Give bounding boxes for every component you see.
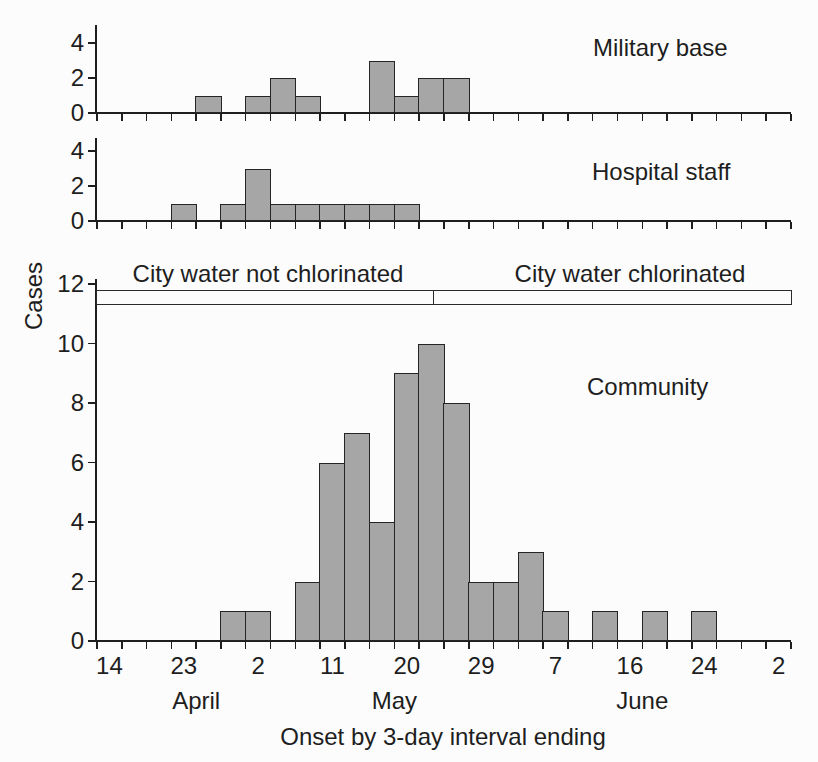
bar — [542, 611, 568, 641]
x-axis-tick — [666, 114, 668, 121]
x-axis-tick — [518, 222, 520, 229]
x-axis-tick — [146, 114, 148, 121]
x-axis-tick — [691, 222, 693, 229]
bar — [295, 582, 321, 642]
x-axis-tick — [394, 222, 396, 229]
x-axis-tick — [567, 642, 569, 649]
y-axis-line — [95, 279, 97, 642]
bar — [344, 204, 370, 222]
x-axis-tick — [617, 642, 619, 649]
x-axis-tick — [468, 114, 470, 121]
x-axis-tick — [443, 642, 445, 649]
x-axis-tick — [195, 642, 197, 649]
x-axis-tick — [245, 222, 247, 229]
y-tick-label: 4 — [38, 30, 84, 56]
panel-title-military-base: Military base — [593, 34, 728, 62]
bar — [443, 403, 469, 641]
y-tick-label: 0 — [38, 100, 84, 126]
x-axis-tick — [592, 114, 594, 121]
x-axis-tick — [394, 642, 396, 649]
x-axis-tick — [270, 222, 272, 229]
panel-title-hospital-staff: Hospital staff — [592, 158, 730, 186]
x-axis-tick — [369, 222, 371, 229]
bar — [319, 204, 345, 222]
x-axis-tick — [790, 222, 792, 229]
x-axis-tick — [716, 642, 718, 649]
bar — [195, 96, 221, 114]
x-tick-label: 11 — [300, 653, 364, 679]
x-axis-tick — [121, 114, 123, 121]
x-axis-tick — [617, 114, 619, 121]
bar — [295, 204, 321, 222]
y-tick-label: 2 — [38, 65, 84, 91]
x-axis-tick — [666, 222, 668, 229]
x-tick-label: 14 — [77, 653, 141, 679]
bar — [394, 204, 420, 222]
x-axis-tick — [567, 114, 569, 121]
x-axis-tick — [121, 222, 123, 229]
x-axis-tick — [493, 114, 495, 121]
bar — [518, 552, 544, 641]
y-tick-label: 2 — [38, 173, 84, 199]
x-axis-tick — [195, 114, 197, 121]
x-axis-tick — [790, 642, 792, 649]
y-tick-label: 8 — [38, 390, 84, 416]
x-axis-tick — [295, 114, 297, 121]
y-tick-label: 10 — [38, 331, 84, 357]
y-tick-label: 0 — [38, 208, 84, 234]
y-tick-label: 6 — [38, 450, 84, 476]
x-axis-tick — [592, 222, 594, 229]
y-axis-line — [95, 25, 97, 114]
x-axis-tick — [270, 642, 272, 649]
month-label-june: June — [582, 688, 702, 714]
x-tick-label: 23 — [152, 653, 216, 679]
chlorination-label-not-chlorinated: City water not chlorinated — [133, 261, 404, 287]
bar — [220, 204, 246, 222]
bar — [443, 78, 469, 113]
x-axis-tick — [741, 114, 743, 121]
x-axis-tick — [468, 642, 470, 649]
bar — [295, 96, 321, 114]
bar — [344, 433, 370, 641]
x-axis-tick — [220, 222, 222, 229]
y-tick-label: 4 — [38, 509, 84, 535]
y-axis-tick — [88, 150, 95, 152]
y-axis-line — [95, 138, 97, 222]
x-axis-tick — [319, 222, 321, 229]
bar — [418, 78, 444, 113]
bar — [270, 78, 296, 113]
x-tick-label: 7 — [524, 653, 588, 679]
x-axis-tick — [146, 222, 148, 229]
x-axis-tick — [468, 222, 470, 229]
bar — [394, 96, 420, 114]
month-label-april: April — [136, 688, 256, 714]
x-tick-label: 24 — [672, 653, 736, 679]
x-axis-tick — [567, 222, 569, 229]
x-axis-tick — [270, 114, 272, 121]
bar — [245, 96, 271, 114]
x-axis-tick — [443, 222, 445, 229]
x-axis-tick — [666, 642, 668, 649]
x-axis-tick — [518, 642, 520, 649]
bar — [468, 582, 494, 642]
bar — [319, 463, 345, 642]
y-axis-tick — [88, 462, 95, 464]
y-axis-tick — [88, 640, 95, 642]
x-axis-tick — [146, 642, 148, 649]
x-axis-tick — [195, 222, 197, 229]
bar — [418, 344, 444, 642]
x-axis-tick — [344, 642, 346, 649]
x-axis-tick — [171, 114, 173, 121]
x-tick-label: 2 — [747, 653, 811, 679]
x-axis-tick — [96, 114, 98, 121]
x-axis-tick — [642, 114, 644, 121]
bar — [369, 61, 395, 114]
x-axis-tick — [245, 642, 247, 649]
bar — [642, 611, 668, 641]
x-axis-tick — [542, 642, 544, 649]
x-axis-tick — [716, 222, 718, 229]
x-axis-tick — [542, 114, 544, 121]
x-axis-tick — [493, 642, 495, 649]
x-tick-label: 29 — [449, 653, 513, 679]
x-axis-tick — [642, 642, 644, 649]
